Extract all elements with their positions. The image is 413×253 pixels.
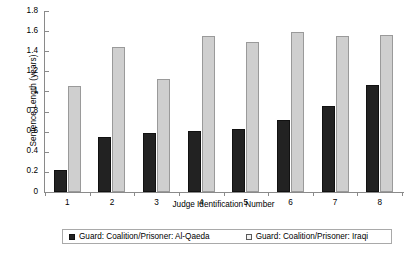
bar xyxy=(188,131,201,192)
bar xyxy=(98,137,111,192)
y-tick-mark xyxy=(45,71,49,72)
x-tick-mark xyxy=(268,192,269,196)
x-tick-mark xyxy=(90,192,91,196)
bar xyxy=(54,170,67,192)
x-tick-mark xyxy=(357,192,358,196)
bar xyxy=(232,129,245,192)
y-tick-label: 0.8 xyxy=(27,106,38,115)
bar xyxy=(336,36,349,192)
y-axis-title: Sentence Length (years) xyxy=(29,21,38,181)
y-tick-label: 1.8 xyxy=(27,6,38,15)
y-tick-label: 1.2 xyxy=(27,66,38,75)
bar xyxy=(366,85,379,192)
y-tick-mark xyxy=(45,51,49,52)
y-tick-label: 1 xyxy=(33,86,38,95)
y-axis-line xyxy=(44,11,45,193)
bar xyxy=(322,106,335,192)
legend-label-al-qaeda: Guard: Coalition/Prisoner: Al-Qaeda xyxy=(79,232,210,241)
bar xyxy=(157,79,170,192)
legend-item-al-qaeda: Guard: Coalition/Prisoner: Al-Qaeda xyxy=(69,232,210,241)
chart-legend: Guard: Coalition/Prisoner: Al-Qaeda Guar… xyxy=(62,229,392,244)
bar xyxy=(246,42,259,192)
bar xyxy=(143,133,156,192)
x-tick-mark xyxy=(402,192,403,196)
x-tick-mark xyxy=(313,192,314,196)
y-tick-mark xyxy=(45,172,49,173)
y-tick-label: 1.4 xyxy=(27,46,38,55)
y-tick-mark xyxy=(45,31,49,32)
bar xyxy=(202,36,215,192)
plot-area: 00.20.40.60.811.21.41.61.8 12345678 xyxy=(45,11,402,192)
legend-label-iraqi: Guard: Coalition/Prisoner: Iraqi xyxy=(256,232,368,241)
y-tick-label: 0.2 xyxy=(27,166,38,175)
bar xyxy=(291,32,304,192)
bar xyxy=(277,120,290,192)
bar xyxy=(68,86,81,192)
legend-item-iraqi: Guard: Coalition/Prisoner: Iraqi xyxy=(246,232,368,241)
x-tick-mark xyxy=(224,192,225,196)
bar xyxy=(380,35,393,192)
bar xyxy=(112,47,125,192)
y-tick-label: 0.4 xyxy=(27,146,38,155)
bar-chart: Sentence Length (years) 00.20.40.60.811.… xyxy=(0,0,413,253)
y-tick-mark xyxy=(45,152,49,153)
x-axis-title: Judge Identification Number xyxy=(45,200,402,209)
legend-swatch-icon-al-qaeda xyxy=(69,234,75,240)
x-tick-mark xyxy=(45,192,46,196)
y-tick-label: 0.6 xyxy=(27,126,38,135)
legend-swatch-icon-iraqi xyxy=(246,234,252,240)
y-tick-mark xyxy=(45,112,49,113)
x-tick-mark xyxy=(134,192,135,196)
y-tick-mark xyxy=(45,11,49,12)
y-tick-mark xyxy=(45,91,49,92)
y-tick-mark xyxy=(45,132,49,133)
y-tick-label: 1.6 xyxy=(27,26,38,35)
y-tick-label: 0 xyxy=(33,187,38,196)
x-tick-mark xyxy=(179,192,180,196)
